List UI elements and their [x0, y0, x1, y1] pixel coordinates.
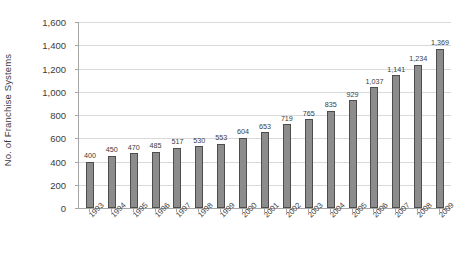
x-axis-tick: 2004: [319, 209, 341, 259]
bar-value-label: 530: [193, 136, 205, 145]
x-axis-tick: 1993: [78, 209, 100, 259]
bar-group: 485: [145, 22, 167, 208]
bar-value-label: 1,141: [387, 65, 405, 74]
bar: [195, 146, 203, 208]
bar-value-label: 765: [303, 109, 315, 118]
x-axis-tick: 1994: [100, 209, 122, 259]
bar-group: 450: [101, 22, 123, 208]
bar: [305, 119, 313, 208]
bar: [349, 100, 357, 208]
x-axis-tick: 1998: [187, 209, 209, 259]
bar: [414, 65, 422, 208]
bar-value-label: 553: [215, 133, 227, 142]
bar-value-label: 1,037: [365, 77, 383, 86]
plot-area: 4004504704855175305536046537197658359291…: [78, 22, 451, 209]
bar-group: 653: [254, 22, 276, 208]
bar: [327, 111, 335, 208]
bar-group: 553: [210, 22, 232, 208]
x-axis-tick: 1997: [166, 209, 188, 259]
bar: [86, 162, 94, 209]
bar-value-label: 719: [281, 114, 293, 123]
bar-value-label: 485: [150, 141, 162, 150]
bar: [173, 148, 181, 208]
bar: [283, 124, 291, 208]
y-axis-tick-label: 1,400: [42, 40, 66, 51]
bar-value-label: 400: [84, 151, 96, 160]
bar-value-label: 929: [347, 90, 359, 99]
bar-group: 517: [167, 22, 189, 208]
bar-group: 530: [188, 22, 210, 208]
x-axis-tick: 2008: [406, 209, 428, 259]
bar: [370, 87, 378, 208]
bar-value-label: 604: [237, 127, 249, 136]
bar: [152, 152, 160, 208]
x-axis-tick: 1999: [209, 209, 231, 259]
bar: [108, 156, 116, 208]
bar-chart: No. of Franchise Systems 02004006008001,…: [0, 0, 467, 260]
x-axis-tick: 2007: [384, 209, 406, 259]
bar-value-label: 450: [106, 145, 118, 154]
bar-group: 929: [342, 22, 364, 208]
y-axis-tick-label: 600: [50, 133, 66, 144]
bar-value-label: 653: [259, 122, 271, 131]
bar-value-label: 517: [171, 137, 183, 146]
bar: [217, 144, 225, 208]
x-axis-tick: 2000: [231, 209, 253, 259]
y-axis-tick-label: 400: [50, 156, 66, 167]
bar-group: 400: [79, 22, 101, 208]
bar-group: 765: [298, 22, 320, 208]
bar: [130, 153, 138, 208]
bar-group: 1,141: [385, 22, 407, 208]
y-axis-tick-label: 1,000: [42, 86, 66, 97]
y-axis-tick-label: 0: [61, 203, 66, 214]
x-axis-tick: 1996: [144, 209, 166, 259]
y-axis-tick-label: 1,200: [42, 63, 66, 74]
bar-group: 1,369: [429, 22, 451, 208]
x-axis-tick: 2006: [362, 209, 384, 259]
bar-value-label: 470: [128, 143, 140, 152]
x-axis-tick: 2005: [341, 209, 363, 259]
x-axis-tick: 2009: [428, 209, 450, 259]
bar-group: 1,037: [363, 22, 385, 208]
bar: [436, 49, 444, 208]
x-axis-tick-labels: 1993199419951996199719981999200020012002…: [78, 209, 450, 259]
x-axis-tick: 2003: [297, 209, 319, 259]
bar: [392, 75, 400, 208]
bar-value-label: 1,369: [431, 38, 449, 47]
y-axis-tick-labels: 02004006008001,0001,2001,4001,600: [28, 22, 72, 208]
y-axis-tick-label: 800: [50, 110, 66, 121]
bars-series: 4004504704855175305536046537197658359291…: [79, 22, 451, 208]
x-axis-tick: 1995: [122, 209, 144, 259]
x-axis-tick: 2002: [275, 209, 297, 259]
bar: [261, 132, 269, 208]
bar-group: 470: [123, 22, 145, 208]
bar-group: 1,234: [407, 22, 429, 208]
bar-value-label: 1,234: [409, 54, 427, 63]
bar-group: 835: [320, 22, 342, 208]
bar: [239, 138, 247, 208]
y-axis-tick-label: 200: [50, 179, 66, 190]
bar-group: 604: [232, 22, 254, 208]
y-axis-tick-label: 1,600: [42, 17, 66, 28]
bar-value-label: 835: [325, 100, 337, 109]
x-axis-tick: 2001: [253, 209, 275, 259]
bar-group: 719: [276, 22, 298, 208]
